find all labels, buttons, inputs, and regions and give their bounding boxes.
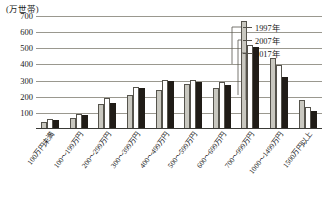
bar	[82, 115, 88, 128]
legend-item-1997: 1997年	[243, 21, 280, 34]
bar	[282, 77, 288, 128]
bar	[225, 85, 231, 128]
x-label-cell: 1500万円以上	[293, 130, 322, 196]
chart-legend: 1997年 2007年 2017年	[243, 21, 280, 60]
y-axis-tick-label: 200	[20, 92, 33, 102]
legend-leader-dash-icon	[243, 27, 252, 28]
legend-label: 1997年	[255, 24, 280, 33]
bar	[53, 120, 59, 128]
bar-group	[179, 16, 208, 128]
x-axis-labels: 100万円未満100〜199万円200〜299万円300〜399万円400〜49…	[36, 130, 322, 196]
y-axis-tick-label: 400	[20, 59, 33, 69]
legend-label: 2007年	[255, 37, 280, 46]
legend-leader-dash-icon	[243, 40, 252, 41]
legend-item-2007: 2007年	[243, 34, 280, 47]
bar	[139, 88, 145, 128]
bar	[311, 111, 317, 128]
y-axis-tick-label: 700	[20, 11, 33, 21]
bar	[196, 82, 202, 128]
bar-group	[122, 16, 151, 128]
x-axis-line	[36, 128, 322, 129]
legend-item-2017: 2017年	[243, 47, 280, 60]
legend-label: 2017年	[255, 50, 280, 59]
y-axis-tick-label: 300	[20, 76, 33, 86]
bar-group	[293, 16, 322, 128]
legend-leader-dash-icon	[243, 53, 252, 54]
x-axis-tick-label: 100万円未満	[26, 131, 56, 166]
bar-group	[208, 16, 237, 128]
y-axis-tick-label: 100	[20, 108, 33, 118]
bar-group	[93, 16, 122, 128]
bar	[110, 103, 116, 128]
y-axis-tick-label: 600	[20, 27, 33, 37]
bar	[168, 81, 174, 128]
bar-group	[150, 16, 179, 128]
y-axis-tick-label: 500	[20, 43, 33, 53]
bar-group	[65, 16, 94, 128]
income-distribution-bar-chart: (万世帯) 100200300400500600700 100万円未満100〜1…	[0, 0, 333, 198]
bar-group	[36, 16, 65, 128]
